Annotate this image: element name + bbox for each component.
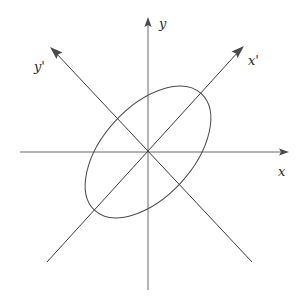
x-axis-label: x [278,165,285,178]
figure-canvas [0,0,301,302]
x-prime-axis-line [47,51,239,262]
y-prime-axis [50,47,252,262]
x-prime-axis [47,46,244,262]
x-prime-axis-label: x' [248,54,259,67]
x-axis [20,148,289,155]
arrow-up-right-icon [232,46,245,58]
arrow-up-left-icon [50,47,63,59]
rotated-axes-ellipse-figure: x y x' y' [0,0,301,302]
y-prime-axis-line [55,52,252,262]
y-prime-axis-label: y' [34,60,45,73]
y-axis-label: y [159,17,166,30]
